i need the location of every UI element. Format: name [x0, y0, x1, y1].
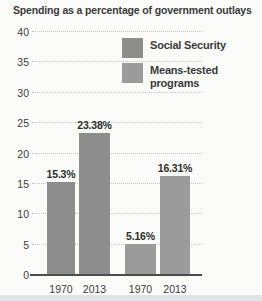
chart-title: Spending as a percentage of government o… [13, 4, 252, 16]
bar-value-label-3: 16.31% [144, 162, 206, 174]
x-axis-line [30, 274, 202, 276]
means-tested-swatch-icon [122, 63, 143, 83]
y-axis-tick-10: 10 [3, 208, 29, 220]
y-axis-tick-30: 30 [3, 87, 29, 99]
scan-artifact-band [0, 295, 262, 301]
bar-chart: Spending as a percentage of government o… [0, 0, 262, 301]
y-axis-tick-35: 35 [3, 56, 29, 68]
legend-item-social-security: Social Security [122, 38, 238, 58]
x-axis-tick-3: 2013 [153, 283, 197, 295]
social-security-swatch-icon [122, 38, 143, 58]
y-axis-tick-40: 40 [3, 26, 29, 38]
y-axis-tick-0: 0 [3, 269, 29, 281]
y-axis-tick-15: 15 [3, 178, 29, 190]
legend-label-means-tested: Means-tested programs [150, 63, 238, 90]
bar-social-security-2013 [79, 133, 110, 274]
legend-label-social-security: Social Security [150, 38, 238, 52]
gridline-20 [32, 153, 202, 154]
legend-item-means-tested: Means-tested programs [122, 63, 238, 90]
x-axis-tick-1: 2013 [73, 283, 117, 295]
y-axis-tick-5: 5 [3, 239, 29, 251]
bar-social-security-1970 [47, 182, 75, 274]
bar-means-tested-programs-1970 [125, 244, 156, 274]
y-axis-tick-25: 25 [3, 117, 29, 129]
bar-value-label-1: 23.38% [64, 119, 126, 131]
gridline-30 [32, 92, 202, 93]
y-axis-tick-20: 20 [3, 148, 29, 160]
gridline-40 [32, 31, 202, 32]
bar-means-tested-programs-2013 [160, 176, 190, 274]
